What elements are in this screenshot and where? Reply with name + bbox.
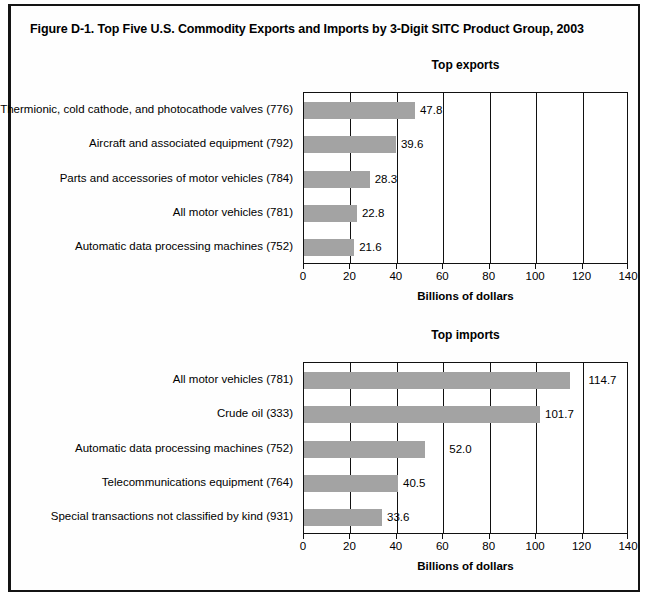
- x-tick: [303, 264, 304, 269]
- bar-value-label: 39.6: [401, 136, 423, 153]
- category-label: Aircraft and associated equipment (792): [89, 135, 293, 152]
- bar-value-label: 33.6: [387, 509, 409, 526]
- x-tick: [303, 534, 304, 539]
- bar-value-label: 47.8: [420, 102, 442, 119]
- gridline-80: [490, 93, 491, 263]
- plot-area-imports: 114.7101.752.040.533.6: [303, 362, 628, 534]
- figure-title: Figure D-1. Top Five U.S. Commodity Expo…: [30, 22, 584, 36]
- category-label: Telecommunications equipment (764): [102, 474, 293, 491]
- bar-value-label: 28.3: [375, 171, 397, 188]
- x-tick-label: 60: [436, 270, 449, 282]
- plot-area-exports: 47.839.628.322.821.6: [303, 92, 628, 264]
- bar-value-label: 101.7: [545, 406, 574, 423]
- x-tick-label: 120: [572, 540, 591, 552]
- gridline-100: [536, 93, 537, 263]
- bar: [304, 205, 357, 222]
- x-tick: [396, 534, 397, 539]
- category-labels-imports: All motor vehicles (781)Crude oil (333)A…: [20, 362, 297, 534]
- bar-value-label: 40.5: [403, 475, 425, 492]
- x-axis-title-imports: Billions of dollars: [303, 560, 628, 572]
- bar: [304, 475, 398, 492]
- bar-value-label: 52.0: [449, 441, 471, 458]
- chart-title-exports: Top exports: [303, 58, 628, 72]
- category-label: All motor vehicles (781): [173, 371, 293, 388]
- gridline-60: [443, 93, 444, 263]
- x-tick: [489, 534, 490, 539]
- x-tick: [627, 534, 628, 539]
- category-label: Automatic data processing machines (752): [75, 440, 293, 457]
- x-tick-label: 40: [389, 540, 402, 552]
- x-tick: [442, 264, 443, 269]
- bar: [304, 102, 415, 119]
- bar: [304, 406, 540, 423]
- x-tick-label: 60: [436, 540, 449, 552]
- x-tick: [535, 264, 536, 269]
- bar-value-label: 22.8: [362, 205, 384, 222]
- chart-title-imports: Top imports: [303, 328, 628, 342]
- gridline-120: [583, 93, 584, 263]
- x-tick: [349, 264, 350, 269]
- x-tick-label: 0: [300, 540, 306, 552]
- bar-value-label: 21.6: [359, 239, 381, 256]
- x-tick: [349, 534, 350, 539]
- x-tick-label: 140: [618, 540, 637, 552]
- x-tick: [396, 264, 397, 269]
- bar: [304, 171, 370, 188]
- category-label: Crude oil (333): [217, 405, 293, 422]
- x-tick-label: 140: [618, 270, 637, 282]
- x-tick: [582, 264, 583, 269]
- category-label: Parts and accessories of motor vehicles …: [60, 170, 293, 187]
- x-tick: [582, 534, 583, 539]
- x-tick: [489, 264, 490, 269]
- category-label: Thermionic, cold cathode, and photocatho…: [0, 101, 293, 118]
- x-tick-label: 40: [389, 270, 402, 282]
- x-axis-title-exports: Billions of dollars: [303, 290, 628, 302]
- x-tick-label: 20: [343, 270, 356, 282]
- x-tick: [535, 534, 536, 539]
- category-label: All motor vehicles (781): [173, 204, 293, 221]
- x-tick-label: 120: [572, 270, 591, 282]
- category-label: Automatic data processing machines (752): [75, 238, 293, 255]
- bar: [304, 239, 354, 256]
- bar: [304, 441, 425, 458]
- x-tick-label: 80: [482, 540, 495, 552]
- bar: [304, 136, 396, 153]
- category-label: Special transactions not classified by k…: [51, 508, 293, 525]
- x-tick-label: 100: [526, 270, 545, 282]
- x-tick: [442, 534, 443, 539]
- gridline-120: [583, 363, 584, 533]
- bar-value-label: 114.7: [589, 372, 617, 389]
- category-labels-exports: Thermionic, cold cathode, and photocatho…: [20, 92, 297, 264]
- x-tick: [627, 264, 628, 269]
- bar: [304, 509, 382, 526]
- x-tick-label: 100: [526, 540, 545, 552]
- bar: [304, 372, 570, 389]
- x-tick-label: 0: [300, 270, 306, 282]
- x-tick-label: 20: [343, 540, 356, 552]
- x-tick-label: 80: [482, 270, 495, 282]
